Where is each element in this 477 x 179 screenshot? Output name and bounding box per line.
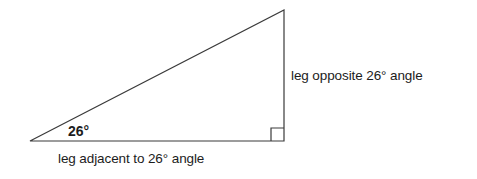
- label-angle-measure: 26°: [68, 124, 89, 138]
- triangle-outline: [30, 10, 284, 141]
- geometry-figure: leg opposite 26° angle leg adjacent to 2…: [0, 0, 477, 179]
- label-leg-adjacent: leg adjacent to 26° angle: [58, 152, 204, 166]
- label-leg-opposite: leg opposite 26° angle: [291, 69, 423, 83]
- right-angle-marker-icon: [271, 128, 284, 141]
